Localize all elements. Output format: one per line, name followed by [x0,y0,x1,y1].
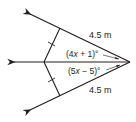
lower-segment [44,62,60,96]
upper-length-label: 4.5 m [89,30,112,40]
upper-segment [44,28,60,62]
upper-angle-label: (4x + 1)° [66,49,98,59]
angle-diagram: 4.5 m 4.5 m (4x + 1)° (5x − 5)° [0,0,136,122]
lower-angle-label: (5x − 5)° [68,66,100,76]
lower-length-label: 4.5 m [89,85,112,95]
angle-pointer-upper-head [115,57,119,60]
